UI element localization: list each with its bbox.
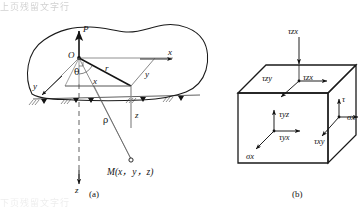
figure-root: 上页残留文字行 <box>0 0 361 210</box>
front-face-stress-triad <box>256 110 300 149</box>
label-right-face-tau-xy: τxy <box>314 137 325 146</box>
label-front-face-tau-yz: τyz <box>279 110 289 119</box>
halfspace-body-outline <box>28 25 208 101</box>
label-angle-theta: θ <box>74 68 79 77</box>
label-projection-y: y <box>145 70 149 79</box>
point-M-marker <box>129 158 133 162</box>
label-point-M: M(x，y，z) <box>107 168 153 178</box>
label-load-P: P <box>83 25 89 34</box>
page-bleed-bottom: 下页残留文字行 <box>0 196 361 210</box>
label-axis-z: z <box>75 186 79 195</box>
label-front-face-sigma-x: σx <box>246 152 254 161</box>
label-top-face-tau-zy: τzy <box>262 74 272 83</box>
label-right-face-sigma-x: σx <box>347 113 355 122</box>
label-origin-O: O <box>68 51 75 60</box>
axis-x <box>79 58 173 59</box>
label-top-face-tau-zx: τzx <box>303 73 313 82</box>
rho-glyph: ρ <box>103 115 108 125</box>
label-front-face-tau-yx: τyx <box>279 133 290 142</box>
label-distance-rho: ρ <box>103 116 108 125</box>
label-axis-x: x <box>168 48 172 57</box>
label-right-face-tau: τ <box>342 95 345 104</box>
stress-cube-body <box>238 65 356 163</box>
label-axis-y: y <box>33 82 37 91</box>
label-top-external-tau-zx: τzx <box>288 27 298 36</box>
figure-vector-canvas <box>0 0 361 210</box>
ground-support-hatching <box>29 95 200 105</box>
theta-glyph: θ <box>74 67 79 77</box>
label-depth-z: z <box>135 111 139 120</box>
label-horizontal-x: x <box>93 77 97 86</box>
label-radius-r: r <box>105 64 109 73</box>
